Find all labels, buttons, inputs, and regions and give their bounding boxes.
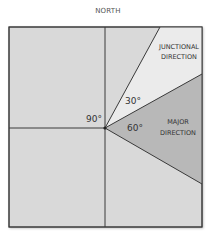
angle-90-label: 90° — [86, 114, 102, 124]
angle-30-label: 30° — [125, 96, 141, 106]
junctional-label-line1: JUNCTIONAL — [158, 43, 199, 51]
major-label-line2: DIRECTION — [160, 129, 196, 137]
center-point — [103, 126, 106, 129]
junctional-label-line2: DIRECTION — [161, 53, 197, 61]
angle-60-label: 60° — [127, 123, 143, 133]
direction-diagram: 90° 30° 60° JUNCTIONAL DIRECTION MAJOR D… — [0, 0, 216, 243]
major-label-line1: MAJOR — [167, 118, 189, 126]
